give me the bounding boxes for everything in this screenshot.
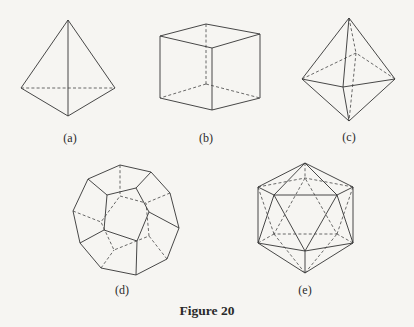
panel-label-c: (c) [342,130,355,145]
icosahedron-drawing [258,163,353,273]
panel-label-b: (b) [199,131,213,146]
tetrahedron-drawing [21,20,115,116]
dodecahedron-drawing [73,165,179,275]
figure-caption: Figure 20 [180,303,235,319]
cube-drawing [160,24,260,110]
figure-canvas [0,0,414,327]
octahedron-drawing [302,18,395,121]
panel-label-e: (e) [298,283,311,298]
panel-label-a: (a) [63,131,76,146]
panel-label-d: (d) [115,283,129,298]
